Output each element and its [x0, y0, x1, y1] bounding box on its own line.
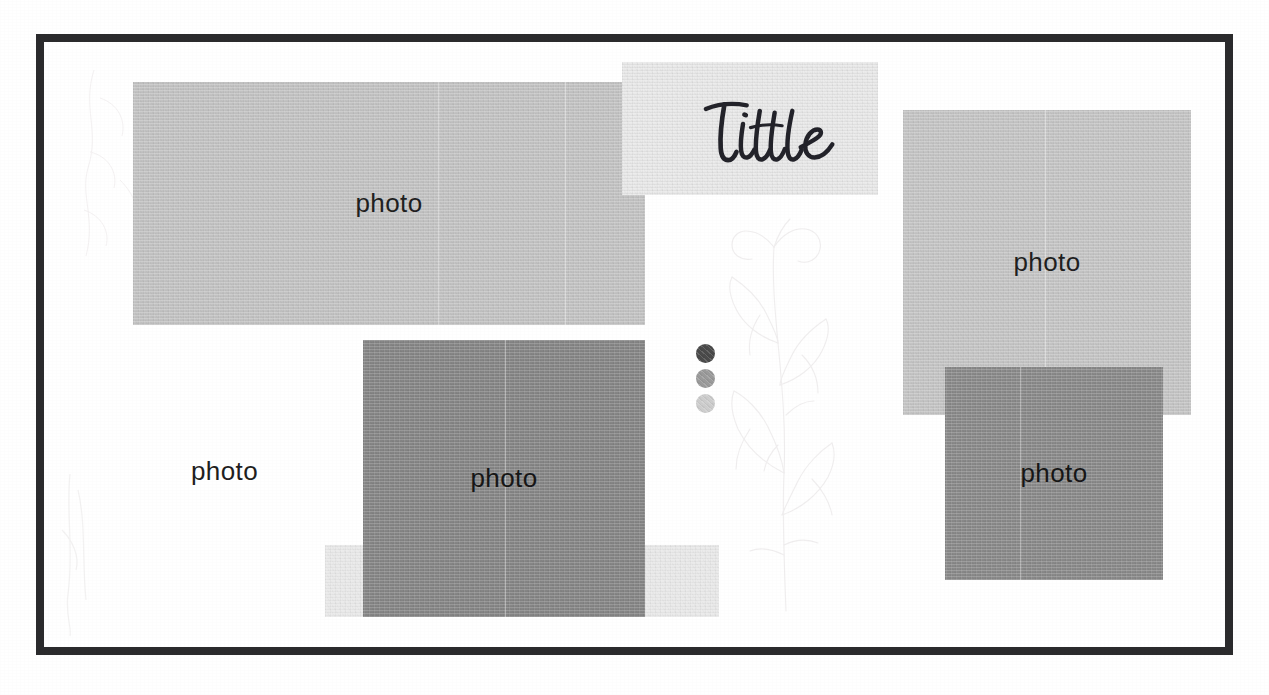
photo-label: photo [1020, 458, 1087, 489]
swatch-grain [696, 369, 715, 388]
color-palette-swatches [696, 344, 718, 413]
scrapbook-canvas: photo photo photo photo photo [0, 0, 1269, 695]
swatch-grain [696, 344, 715, 363]
scan-seam-line [438, 82, 439, 325]
photo-label: photo [470, 463, 537, 494]
swatch-grain [696, 394, 715, 413]
photo-caption-standalone: photo [191, 456, 258, 487]
photo-label: photo [1013, 247, 1080, 278]
photo-label: photo [355, 188, 422, 219]
photo-placeholder-center[interactable]: photo [363, 340, 645, 617]
swatch-mid-gray[interactable] [696, 369, 715, 388]
swatch-light-gray[interactable] [696, 394, 715, 413]
photo-placeholder-right-bottom[interactable]: photo [945, 367, 1163, 580]
scan-seam-line [565, 82, 566, 325]
swatch-dark-gray[interactable] [696, 344, 715, 363]
pencil-sketch-mark-bottom-left [52, 470, 112, 640]
photo-placeholder-main[interactable]: photo [133, 82, 645, 325]
page-title [700, 96, 840, 176]
